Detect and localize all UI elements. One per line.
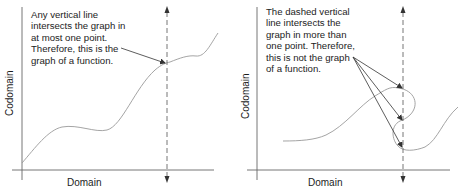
caption-line: Any vertical line bbox=[31, 9, 125, 20]
pointer-arrow-1 bbox=[353, 57, 402, 88]
caption-text: The dashed vertical line intersects the … bbox=[266, 6, 355, 74]
x-axis-label: Domain bbox=[308, 177, 342, 188]
pointer-arrow bbox=[121, 48, 165, 63]
caption-line: Therefore, this is the bbox=[31, 43, 125, 54]
arrowhead-up-icon bbox=[165, 6, 170, 13]
y-axis-label: Codomain bbox=[4, 70, 15, 116]
caption-line: one point. Therefore, bbox=[266, 40, 355, 51]
pointer-arrow-2 bbox=[353, 57, 402, 120]
relation-curve bbox=[283, 87, 458, 150]
caption-line: graph of a function. bbox=[31, 55, 125, 66]
caption-line: of a function. bbox=[266, 63, 355, 74]
vertical-line-test-function-panel: Any vertical line intersects the graph i… bbox=[0, 0, 230, 193]
caption-line: intersects the graph in bbox=[31, 20, 125, 31]
arrowhead-down-icon bbox=[165, 176, 170, 183]
y-axis-label: Codomain bbox=[240, 73, 251, 119]
caption-line: this is not the graph bbox=[266, 52, 355, 63]
arrowhead-up-icon bbox=[401, 6, 406, 13]
caption-line: The dashed vertical bbox=[266, 6, 355, 17]
pointer-arrow-3 bbox=[353, 57, 402, 147]
arrowhead-down-icon bbox=[401, 176, 406, 183]
x-axis-label: Domain bbox=[67, 177, 101, 188]
caption-line: at most one point. bbox=[31, 32, 125, 43]
caption-line: line intersects the bbox=[266, 17, 355, 28]
caption-line: graph in more than bbox=[266, 29, 355, 40]
vertical-line-test-non-function-panel: The dashed vertical line intersects the … bbox=[230, 0, 460, 193]
caption-text: Any vertical line intersects the graph i… bbox=[31, 9, 125, 66]
